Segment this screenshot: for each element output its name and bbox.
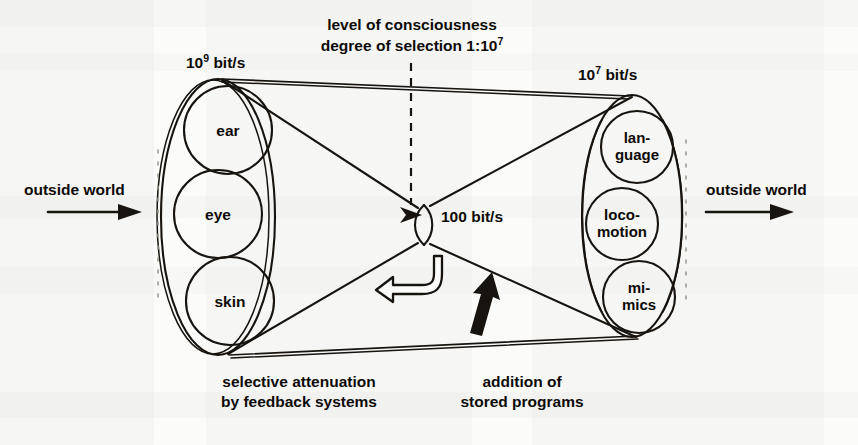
effector-label-locomotion-line1: loco- bbox=[604, 206, 640, 223]
effector-label-language-line2: guage bbox=[615, 146, 659, 163]
programs-caption-line2: stored programs bbox=[460, 393, 583, 410]
output-flow-arrow-icon bbox=[706, 204, 794, 220]
outside-world-right-label: outside world bbox=[706, 181, 807, 198]
sense-circle-ear[interactable]: ear bbox=[184, 86, 272, 174]
effector-label-locomotion-line2: motion bbox=[597, 223, 647, 240]
outside-world-left-label: outside world bbox=[24, 181, 125, 198]
waist-rate-label: 100 bit/s bbox=[441, 208, 503, 225]
sense-circle-eye[interactable]: eye bbox=[174, 170, 262, 258]
effector-label-mimics-line2: mics bbox=[622, 296, 656, 313]
information-flow-diagram: ear eye skin lan- guage loco- motion bbox=[0, 0, 858, 445]
effector-circle-mimics[interactable]: mi- mics bbox=[603, 261, 675, 333]
effector-label-language-line1: lan- bbox=[624, 129, 651, 146]
effector-circle-locomotion[interactable]: loco- motion bbox=[586, 188, 658, 260]
programs-caption-line1: addition of bbox=[482, 373, 562, 390]
sense-circle-skin[interactable]: skin bbox=[186, 257, 274, 345]
sense-label-eye: eye bbox=[205, 206, 231, 223]
consciousness-caption-line1: level of consciousness bbox=[327, 16, 497, 33]
effector-label-mimics-line1: mi- bbox=[628, 279, 651, 296]
sense-label-ear: ear bbox=[216, 122, 239, 139]
input-flow-arrow-icon bbox=[48, 204, 142, 220]
input-rate-label: 109 bit/s bbox=[186, 52, 245, 71]
stored-programs-arrow-icon bbox=[470, 272, 500, 336]
sense-label-skin: skin bbox=[214, 293, 245, 310]
convergence-lines bbox=[222, 80, 636, 354]
consciousness-arrowhead-icon bbox=[400, 207, 422, 223]
consciousness-bottleneck[interactable] bbox=[415, 205, 432, 245]
feedback-caption-line2: by feedback systems bbox=[221, 393, 377, 410]
feedback-caption-line1: selective attenuation bbox=[222, 373, 375, 390]
consciousness-caption-line2: degree of selection 1:107 bbox=[321, 35, 504, 54]
effector-circle-language[interactable]: lan- guage bbox=[601, 111, 673, 183]
figure-canvas: ear eye skin lan- guage loco- motion bbox=[0, 0, 858, 445]
output-rate-label: 107 bit/s bbox=[578, 64, 637, 83]
